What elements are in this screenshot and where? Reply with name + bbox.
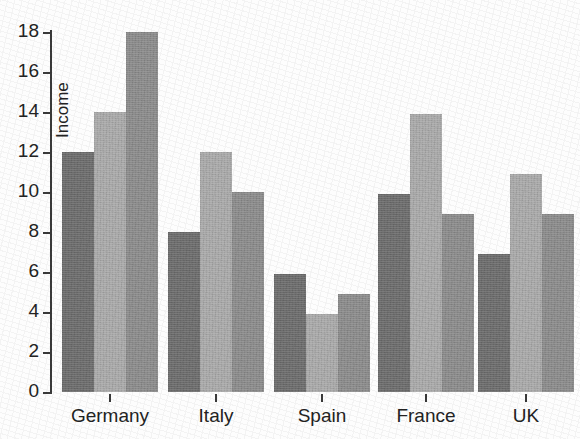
plot-area <box>50 32 570 392</box>
bar[interactable] <box>62 152 94 392</box>
bar-group <box>168 32 264 392</box>
bar[interactable] <box>126 32 158 392</box>
y-axis-tick-mark <box>43 192 50 194</box>
y-axis-tick-mark <box>43 32 50 34</box>
bar-group <box>378 32 474 392</box>
x-axis-tick-mark <box>321 394 323 402</box>
bar[interactable] <box>274 274 306 392</box>
bar[interactable] <box>378 194 410 392</box>
y-axis-tick-mark <box>43 352 50 354</box>
bar-group <box>478 32 574 392</box>
bar[interactable] <box>542 214 574 392</box>
x-axis-tick-mark <box>109 394 111 402</box>
y-axis-tick-mark <box>43 392 50 394</box>
bar[interactable] <box>478 254 510 392</box>
bar-chart: 024681012141618 Income GermanyItalySpain… <box>0 0 580 439</box>
x-axis-category-label: Italy <box>199 405 234 427</box>
y-axis-tick-label: 6 <box>28 260 39 282</box>
bar[interactable] <box>232 192 264 392</box>
y-axis-tick-label: 2 <box>28 340 39 362</box>
bar-group <box>62 32 158 392</box>
bar[interactable] <box>306 314 338 392</box>
y-axis-tick-label: 8 <box>28 220 39 242</box>
y-axis-tick-mark <box>43 232 50 234</box>
bar[interactable] <box>510 174 542 392</box>
x-axis-category-label: Spain <box>298 405 347 427</box>
bar[interactable] <box>410 114 442 392</box>
x-axis-tick-mark <box>525 394 527 402</box>
bar[interactable] <box>168 232 200 392</box>
y-axis-title: Income <box>49 0 69 28</box>
bar[interactable] <box>200 152 232 392</box>
bar[interactable] <box>338 294 370 392</box>
y-axis-tick-label: 16 <box>18 60 39 82</box>
x-axis-tick-mark <box>215 394 217 402</box>
x-axis-category-label: UK <box>513 405 539 427</box>
y-axis-tick-mark <box>43 312 50 314</box>
y-axis-tick-mark <box>43 72 50 74</box>
y-axis-tick-label: 10 <box>18 180 39 202</box>
x-axis-category-label: Germany <box>71 405 149 427</box>
x-axis-category-label: France <box>396 405 455 427</box>
x-axis-tick-mark <box>425 394 427 402</box>
y-axis-tick-label: 4 <box>28 300 39 322</box>
y-axis-tick-label: 14 <box>18 100 39 122</box>
bar[interactable] <box>94 112 126 392</box>
y-axis-tick-mark <box>43 272 50 274</box>
y-axis-tick-label: 0 <box>28 380 39 402</box>
y-axis-tick-mark <box>43 112 50 114</box>
y-axis-tick-label: 18 <box>18 20 39 42</box>
bar[interactable] <box>442 214 474 392</box>
y-axis-tick-mark <box>43 152 50 154</box>
bar-group <box>274 32 370 392</box>
y-axis-tick-label: 12 <box>18 140 39 162</box>
